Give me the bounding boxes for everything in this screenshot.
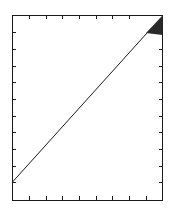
x-axis-ticks [30,16,147,200]
plot-frame [13,16,163,201]
chart [0,0,175,219]
diagonal-line [13,33,148,182]
shaded-corner-region [146,16,163,36]
y-axis-ticks [12,33,162,183]
